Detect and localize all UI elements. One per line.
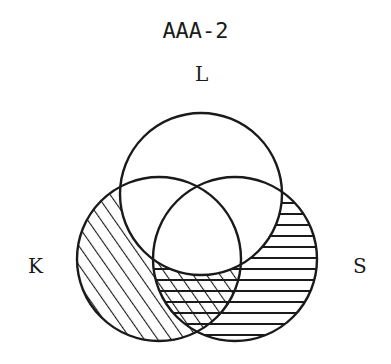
s-minus-l-hatch [0,0,391,364]
venn-diagram [0,0,391,364]
shaded-regions [0,0,391,364]
